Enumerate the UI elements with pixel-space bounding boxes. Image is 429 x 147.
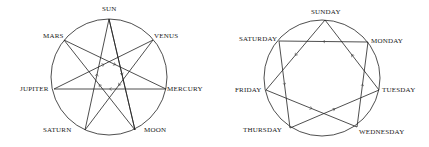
label-saturn: SATURN — [43, 126, 71, 134]
label-friday: FRIDAY — [235, 86, 262, 94]
weekday-heptagon — [264, 20, 380, 136]
label-sunday: SUNDAY — [311, 8, 341, 16]
label-venus: VENUS — [154, 32, 178, 40]
diagrams-canvas — [0, 0, 429, 147]
label-mars: MARS — [43, 32, 64, 40]
planet-heptagram — [51, 19, 167, 135]
label-monday: MONDAY — [371, 37, 403, 45]
label-tuesday: TUESDAY — [382, 86, 415, 94]
label-thursday: THURSDAY — [243, 126, 282, 134]
label-saturday: SATURDAY — [239, 35, 277, 43]
label-jupiter: JUPITER — [20, 85, 49, 93]
label-sun: SUN — [102, 5, 117, 13]
label-mercury: MERCURY — [167, 85, 203, 93]
label-wednesday: WEDNESDAY — [359, 128, 405, 136]
label-moon: MOON — [144, 126, 166, 134]
